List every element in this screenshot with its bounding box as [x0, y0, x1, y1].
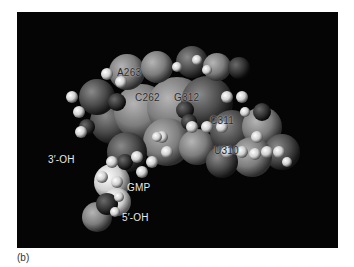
- label-5-oh: 5′-OH: [122, 212, 149, 223]
- label-c262: C262: [135, 92, 160, 103]
- label-g312: G312: [174, 92, 199, 103]
- label-3-oh: 3′-OH: [48, 154, 75, 165]
- label-u310: U310: [214, 145, 239, 156]
- label-c311: C311: [210, 115, 234, 126]
- label-a263: A263: [117, 67, 141, 78]
- molecular-model-image: A263 C262 G312 C311 U310 3′-OH GMP 5′-OH: [17, 12, 338, 248]
- panel-caption: (b): [17, 252, 29, 263]
- space-filling-model: [17, 12, 338, 248]
- label-gmp: GMP: [127, 182, 150, 193]
